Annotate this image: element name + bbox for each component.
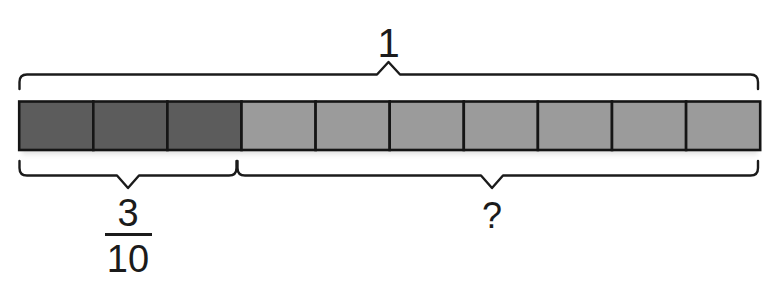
bar-cell-7 [464,102,538,151]
bar-cell-10 [686,102,760,151]
whole-brace-path [20,62,759,89]
fraction-numerator: 3 [117,192,138,234]
bar-cell-6 [390,102,464,151]
fraction-bar [19,102,760,151]
fraction-bar-figure: 1 3 10 ? [0,0,782,299]
whole-label: 1 [377,21,399,65]
bar-cell-3 [167,102,241,151]
bar-cell-1 [19,102,93,151]
bar-cell-9 [612,102,686,151]
unknown-part-brace: ? [238,161,759,236]
whole-brace: 1 [20,21,759,89]
unknown-part-brace-path [238,161,759,188]
bar-cell-2 [93,102,167,151]
fraction-three-tenths: 3 10 [105,192,152,280]
unknown-label: ? [482,195,502,236]
figure-canvas: 1 3 10 ? [0,0,782,299]
bar-cell-5 [316,102,390,151]
bar-cell-8 [538,102,612,151]
known-part-brace: 3 10 [20,161,237,280]
bar-cell-4 [242,102,316,151]
fraction-denominator: 10 [107,238,149,280]
known-part-brace-path [20,161,237,188]
